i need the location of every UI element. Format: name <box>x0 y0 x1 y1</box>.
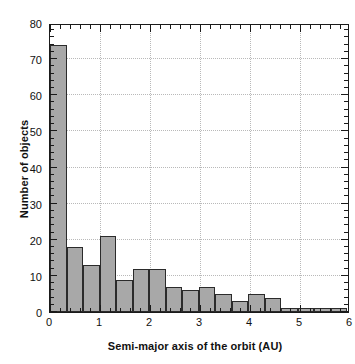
y-tick-minor <box>50 232 54 233</box>
x-tick-minor <box>90 25 91 29</box>
x-tick-minor <box>340 308 341 312</box>
y-tick-minor <box>50 73 54 74</box>
y-tick-minor <box>344 44 348 45</box>
y-tick-minor <box>50 109 54 110</box>
y-tick-minor <box>50 297 54 298</box>
x-tick-label: 3 <box>184 316 214 328</box>
x-tick-minor <box>220 25 221 29</box>
x-tick-minor <box>260 25 261 29</box>
y-tick-minor <box>50 65 54 66</box>
y-tick-major <box>341 167 348 168</box>
y-tick-label: 80 <box>6 18 42 30</box>
y-tick-minor <box>50 246 54 247</box>
x-tick-major <box>250 305 251 312</box>
histogram-bar <box>67 247 84 312</box>
y-tick-minor <box>50 101 54 102</box>
x-tick-minor <box>110 25 111 29</box>
y-tick-minor <box>50 36 54 37</box>
x-tick-minor <box>90 308 91 312</box>
x-tick-label: 2 <box>134 316 164 328</box>
x-tick-minor <box>330 25 331 29</box>
x-tick-minor <box>280 25 281 29</box>
y-tick-minor <box>50 51 54 52</box>
y-tick-minor <box>344 138 348 139</box>
x-tick-major <box>150 305 151 312</box>
y-tick-minor <box>344 217 348 218</box>
y-tick-major <box>50 239 57 240</box>
y-tick-minor <box>344 289 348 290</box>
y-tick-minor <box>50 138 54 139</box>
histogram-bar <box>265 298 282 312</box>
y-tick-major <box>50 275 57 276</box>
y-tick-major <box>50 311 57 312</box>
x-axis-title: Semi-major axis of the orbit (AU) <box>40 340 350 352</box>
y-tick-minor <box>344 297 348 298</box>
x-tick-minor <box>230 308 231 312</box>
y-tick-minor <box>344 80 348 81</box>
x-tick-minor <box>130 25 131 29</box>
x-tick-minor <box>320 25 321 29</box>
y-tick-minor <box>344 152 348 153</box>
y-tick-minor <box>344 232 348 233</box>
y-tick-label: 20 <box>6 235 42 247</box>
x-tick-minor <box>310 25 311 29</box>
x-tick-major <box>300 25 301 32</box>
y-tick-minor <box>50 195 54 196</box>
y-tick-minor <box>344 145 348 146</box>
x-tick-minor <box>190 25 191 29</box>
y-tick-minor <box>344 73 348 74</box>
y-tick-minor <box>344 174 348 175</box>
x-tick-minor <box>180 308 181 312</box>
x-tick-minor <box>110 308 111 312</box>
y-tick-minor <box>344 188 348 189</box>
y-tick-minor <box>50 289 54 290</box>
x-tick-label: 4 <box>234 316 264 328</box>
x-tick-minor <box>60 308 61 312</box>
x-tick-label: 0 <box>34 316 64 328</box>
x-tick-minor <box>120 308 121 312</box>
x-tick-minor <box>160 308 161 312</box>
y-tick-minor <box>344 65 348 66</box>
x-tick-major <box>50 305 51 312</box>
y-tick-minor <box>50 188 54 189</box>
x-tick-minor <box>310 308 311 312</box>
y-tick-major <box>50 167 57 168</box>
x-tick-major <box>300 305 301 312</box>
x-tick-minor <box>270 308 271 312</box>
bar-group <box>50 25 348 312</box>
y-tick-minor <box>50 159 54 160</box>
y-tick-minor <box>344 282 348 283</box>
histogram-bar <box>50 45 67 312</box>
plot-area <box>49 24 349 313</box>
x-tick-minor <box>280 308 281 312</box>
y-tick-label: 50 <box>6 126 42 138</box>
x-tick-major <box>50 25 51 32</box>
x-tick-minor <box>70 308 71 312</box>
histogram-bar <box>149 269 166 312</box>
y-tick-major <box>341 58 348 59</box>
x-tick-label: 5 <box>284 316 314 328</box>
x-tick-major <box>200 305 201 312</box>
y-tick-minor <box>50 253 54 254</box>
x-tick-minor <box>120 25 121 29</box>
y-tick-major <box>341 275 348 276</box>
histogram-bar <box>133 269 150 312</box>
y-tick-minor <box>344 253 348 254</box>
x-tick-minor <box>330 308 331 312</box>
histogram-bar <box>83 265 100 312</box>
x-tick-minor <box>140 308 141 312</box>
y-tick-minor <box>50 210 54 211</box>
y-tick-label: 70 <box>6 54 42 66</box>
y-tick-minor <box>344 210 348 211</box>
x-tick-minor <box>210 308 211 312</box>
y-tick-minor <box>50 152 54 153</box>
x-tick-label: 1 <box>84 316 114 328</box>
x-tick-minor <box>60 25 61 29</box>
y-tick-major <box>341 130 348 131</box>
x-tick-label: 6 <box>334 316 355 328</box>
y-tick-major <box>50 94 57 95</box>
y-tick-label: 30 <box>6 199 42 211</box>
x-tick-minor <box>320 308 321 312</box>
x-tick-minor <box>240 25 241 29</box>
y-tick-minor <box>50 174 54 175</box>
